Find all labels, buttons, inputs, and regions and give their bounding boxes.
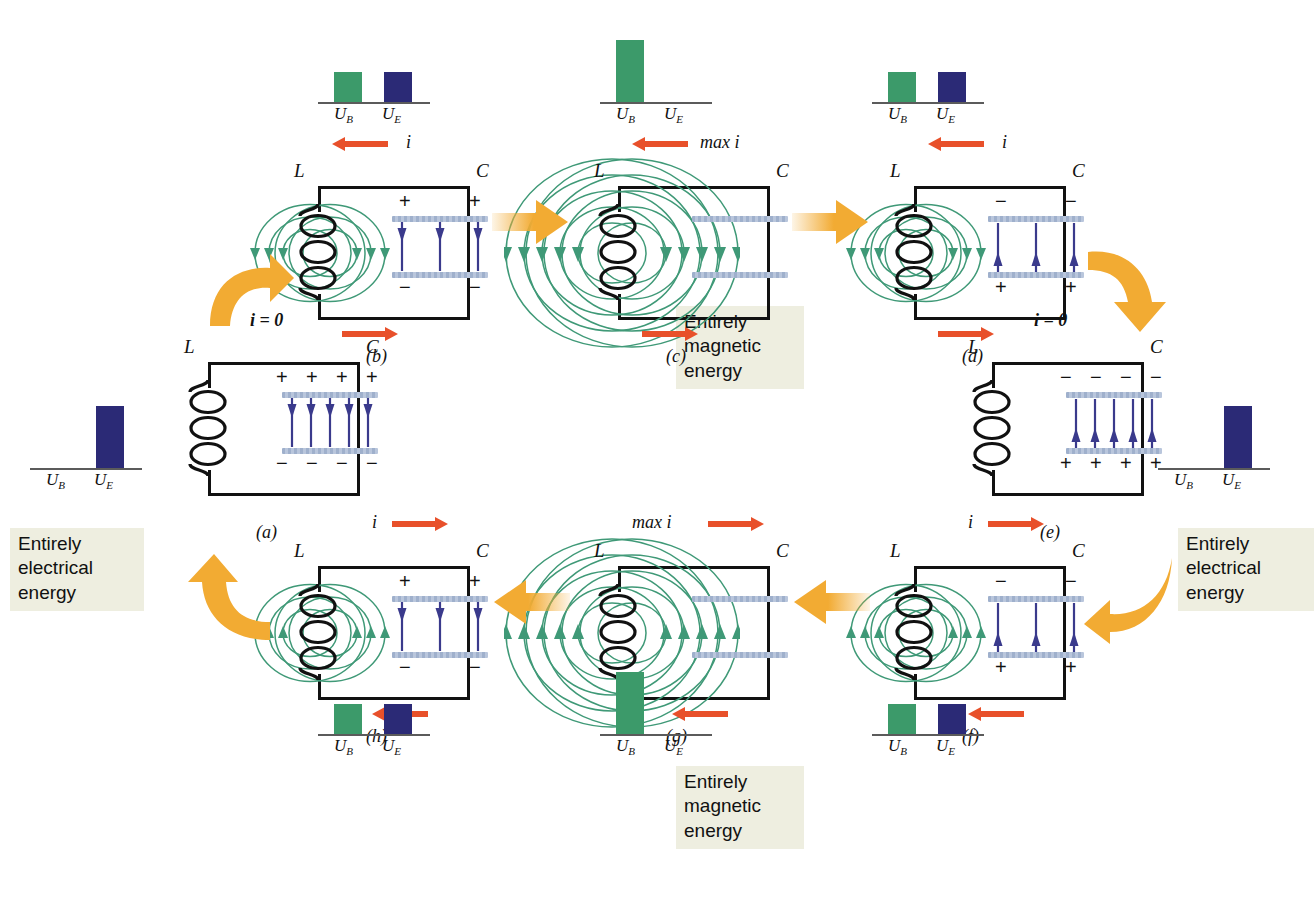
wire-bottom <box>618 317 770 320</box>
transition-arrow-g-to-h <box>492 578 570 630</box>
chart-panel-d: UBUE <box>872 40 992 104</box>
electric-field-arrows <box>392 600 488 654</box>
current-arrow-top <box>332 136 388 156</box>
circuit-panel-a: ++++−−−−LCi = 0(a) <box>178 336 360 496</box>
capacitor-label: C <box>776 540 789 562</box>
capacitor-charge-sign: − <box>1065 570 1077 593</box>
capacitor-charge-sign: + <box>276 366 288 389</box>
panel-label-b: (b) <box>366 346 387 367</box>
bar-magnetic-energy <box>616 40 644 102</box>
inductor-label: L <box>890 160 901 182</box>
wire-top <box>618 186 770 189</box>
bar-electric-energy <box>938 72 966 102</box>
note-line: magnetic <box>684 794 796 818</box>
capacitor-charge-sign: + <box>995 656 1007 679</box>
capacitor-label: C <box>476 540 489 562</box>
current-label: i <box>372 512 377 533</box>
axis-label-electric: UE <box>664 736 683 757</box>
transition-arrow-a-to-b <box>196 248 296 336</box>
bar-magnetic-energy <box>334 72 362 102</box>
capacitor-charge-sign: + <box>995 276 1007 299</box>
inductor-coil <box>292 204 348 300</box>
inductor-label: L <box>184 336 195 358</box>
panel-label-a: (a) <box>256 522 277 543</box>
electric-field-arrows <box>692 600 788 654</box>
circuit-panel-e: −−−−++++LCi = 0(e) <box>962 336 1144 496</box>
capacitor: ++−− <box>392 216 488 278</box>
inductor-coil <box>966 380 1022 476</box>
bar-electric-energy <box>384 72 412 102</box>
inductor-label: L <box>594 160 605 182</box>
electric-field-arrows <box>988 220 1084 274</box>
capacitor-charge-sign: + <box>366 366 378 389</box>
note-line: Entirely <box>684 770 796 794</box>
note-line: electrical <box>1186 556 1306 580</box>
current-arrow-top <box>928 136 984 156</box>
note-entirely-magnetic-bottom: Entirely magnetic energy <box>676 766 804 849</box>
note-line: Entirely <box>1186 532 1306 556</box>
inductor-coil <box>292 584 348 680</box>
inductor-coil <box>888 204 944 300</box>
electric-field-arrows <box>282 396 378 450</box>
axis-label-electric: UE <box>94 470 113 491</box>
note-line: magnetic <box>684 334 796 358</box>
note-line: Entirely <box>18 532 136 556</box>
capacitor-charge-sign: − <box>366 452 378 475</box>
axis-label-magnetic: UB <box>46 470 65 491</box>
chart-plot: UBUE <box>600 672 720 736</box>
current-label: i <box>1002 132 1007 153</box>
current-arrow-top <box>632 136 688 156</box>
capacitor-charge-sign: + <box>336 366 348 389</box>
chart-plot: UBUE <box>318 672 438 736</box>
inductor-label: L <box>968 336 979 358</box>
note-line: energy <box>684 819 796 843</box>
capacitor-charge-sign: + <box>399 190 411 213</box>
capacitor-charge-sign: − <box>336 452 348 475</box>
capacitor-charge-sign: − <box>469 656 481 679</box>
transition-arrow-f-to-g <box>792 578 870 630</box>
wire-top <box>208 362 360 365</box>
capacitor-charge-sign: − <box>469 276 481 299</box>
chart-panel-e: UBUE <box>1158 406 1278 470</box>
inductor-coil <box>182 380 238 476</box>
capacitor-charge-sign: − <box>399 276 411 299</box>
transition-arrow-h-to-a <box>182 552 278 648</box>
axis-label-electric: UE <box>936 736 955 757</box>
capacitor-charge-sign: − <box>1090 366 1102 389</box>
capacitor-charge-sign: + <box>1060 452 1072 475</box>
capacitor-charge-sign: + <box>469 190 481 213</box>
note-line: energy <box>18 581 136 605</box>
chart-plot: UBUE <box>318 40 438 104</box>
capacitor-charge-sign: − <box>1060 366 1072 389</box>
chart-panel-f: UBUE <box>872 672 992 736</box>
chart-panel-c: UBUE <box>600 40 720 104</box>
chart-plot: UBUE <box>30 406 150 470</box>
capacitor-charge-sign: − <box>276 452 288 475</box>
current-label: max i <box>632 512 672 533</box>
current-arrow-top <box>708 516 764 536</box>
capacitor: −−++ <box>988 596 1084 658</box>
capacitor-charge-sign: + <box>1090 452 1102 475</box>
electric-field-arrows <box>692 220 788 274</box>
axis-label-magnetic: UB <box>334 736 353 757</box>
inductor-label: L <box>594 540 605 562</box>
bar-magnetic-energy <box>616 672 644 734</box>
capacitor-charge-sign: + <box>1065 276 1077 299</box>
wire-bottom <box>318 317 470 320</box>
note-line: energy <box>684 359 796 383</box>
circuit-panel-d: −−++LCi(d) <box>884 160 1066 320</box>
wire-bottom <box>208 493 360 496</box>
wire-top <box>318 566 470 569</box>
electric-field-arrows <box>988 600 1084 654</box>
capacitor-charge-sign: − <box>1150 366 1162 389</box>
bar-magnetic-energy <box>334 704 362 734</box>
capacitor <box>692 216 788 278</box>
note-line: energy <box>1186 581 1306 605</box>
capacitor-label: C <box>776 160 789 182</box>
wire-bottom <box>992 493 1144 496</box>
capacitor-charge-sign: − <box>306 452 318 475</box>
transition-arrow-b-to-c <box>492 198 570 250</box>
note-line: electrical <box>18 556 136 580</box>
axis-label-magnetic: UB <box>334 104 353 125</box>
bar-electric-energy <box>938 704 966 734</box>
